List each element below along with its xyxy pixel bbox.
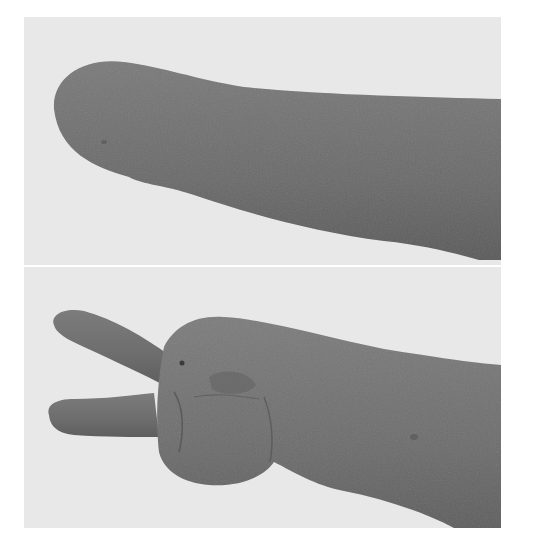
figure bbox=[0, 0, 543, 544]
residual-limb-photo bbox=[24, 17, 501, 265]
lower-finger bbox=[48, 393, 159, 437]
hand-photo bbox=[24, 267, 501, 528]
photo-panel-bottom bbox=[24, 267, 501, 528]
caption-fragment bbox=[24, 537, 501, 544]
photo-panel-top bbox=[24, 17, 501, 265]
